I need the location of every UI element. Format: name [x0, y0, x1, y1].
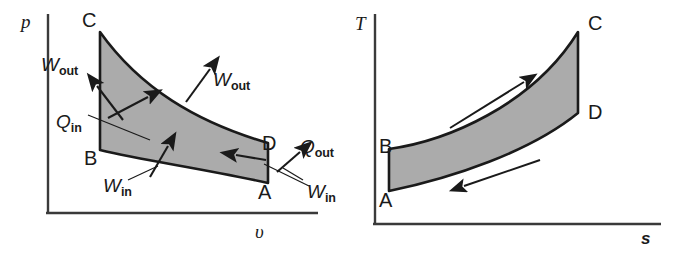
w-in-right-subscript: in	[325, 191, 336, 205]
right-x-axis-label: s	[641, 230, 650, 247]
w-out-upper-subscript: out	[59, 64, 78, 78]
right-panel-ts-diagram	[373, 14, 661, 225]
right-state-point-B: B	[379, 136, 392, 156]
q-out-subscript: out	[315, 146, 334, 160]
left-annotation-w-out-right: Wout	[213, 70, 250, 92]
right-state-point-D: D	[588, 102, 602, 122]
q-in-subscript: in	[71, 121, 82, 135]
left-annotation-w-in-lower: Win	[103, 176, 132, 198]
left-annotation-w-out-upper: Wout	[41, 55, 78, 77]
thermodynamic-cycle-figure: p υ C B D A Wout Qin Wout Win Qout Win T…	[0, 0, 674, 266]
left-state-point-B: B	[84, 148, 97, 168]
w-in-lower-symbol: W	[103, 175, 121, 196]
left-x-axis-label: υ	[255, 222, 264, 241]
w-in-right-symbol: W	[307, 181, 325, 202]
left-state-point-C: C	[82, 10, 96, 30]
left-panel-pv-diagram	[46, 14, 318, 214]
left-annotation-w-in-right: Win	[307, 182, 336, 204]
left-annotation-q-out: Qout	[300, 137, 334, 159]
diagram-canvas	[0, 0, 674, 266]
q-in-symbol: Q	[56, 111, 71, 132]
left-cycle-region	[100, 32, 268, 183]
right-cycle-region	[389, 32, 578, 191]
w-in-lower-subscript: in	[121, 185, 132, 199]
right-state-point-A: A	[379, 190, 392, 210]
left-state-point-A: A	[258, 182, 271, 202]
left-y-axis-label: p	[21, 12, 31, 31]
left-q-out-arrow	[277, 152, 300, 172]
w-out-right-symbol: W	[213, 69, 231, 90]
q-out-symbol: Q	[300, 136, 315, 157]
w-out-right-subscript: out	[231, 79, 250, 93]
right-y-axis-label: T	[355, 14, 366, 33]
left-annotation-q-in: Qin	[56, 112, 82, 134]
left-state-point-D: D	[262, 133, 276, 153]
w-out-upper-symbol: W	[41, 54, 59, 75]
left-w-out-right-arrow	[186, 69, 210, 102]
right-state-point-C: C	[588, 13, 602, 33]
